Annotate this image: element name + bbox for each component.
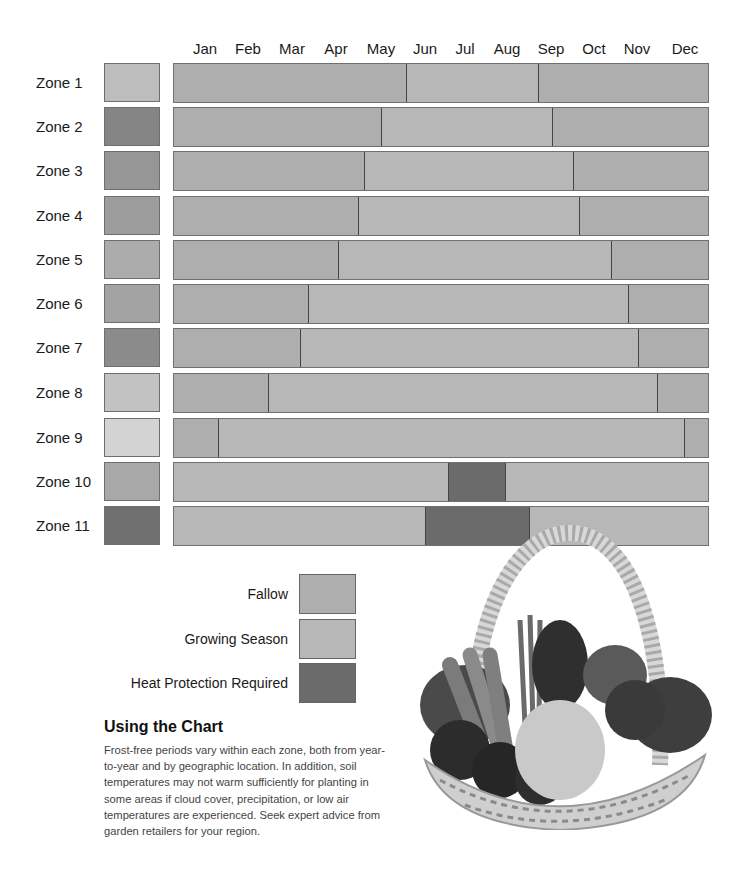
zone-label: Zone 5 [36,251,83,268]
zone-row: Zone 10 [0,462,746,503]
zone-swatch [104,462,160,501]
zone-swatch [104,506,160,545]
legend-item-heat: Heat Protection Required [100,663,356,704]
segment-fallow [628,285,709,323]
segment-fallow [657,374,709,412]
zone-season-bar [173,418,709,458]
zone-season-bar [173,284,709,324]
month-label: Dec [672,40,699,57]
zone-row: Zone 7 [0,328,746,369]
segment-fallow [174,419,218,457]
legend-item-fallow: Fallow [100,574,356,615]
segment-growing [364,152,573,190]
segment-fallow [174,197,358,235]
segment-growing [174,463,448,501]
zone-label: Zone 9 [36,429,83,446]
zone-label: Zone 1 [36,74,83,91]
legend-label: Fallow [248,586,288,602]
legend-swatch [299,663,356,703]
zone-season-bar [173,151,709,191]
legend-label: Growing Season [184,631,288,647]
segment-fallow [174,285,308,323]
using-the-chart: Using the Chart Frost-free periods vary … [104,718,394,839]
zone-swatch [104,418,160,457]
zone-label: Zone 7 [36,339,83,356]
zone-swatch [104,196,160,235]
segment-fallow [611,241,709,279]
zone-label: Zone 11 [36,517,90,534]
month-label: Nov [624,40,651,57]
segment-growing [308,285,628,323]
zone-swatch [104,328,160,367]
zone-season-bar [173,196,709,236]
month-label: Jan [193,40,217,57]
zone-swatch [104,151,160,190]
segment-growing [268,374,657,412]
legend-swatch [299,619,356,659]
segment-growing [300,329,638,367]
segment-fallow [579,197,709,235]
segment-growing [358,197,579,235]
zone-label: Zone 3 [36,162,83,179]
segment-fallow [174,374,268,412]
zone-label: Zone 8 [36,384,83,401]
vegetable-basket-image [405,525,715,830]
month-label: Sep [538,40,565,57]
zone-swatch [104,373,160,412]
segment-fallow [538,64,709,102]
segment-fallow [174,329,300,367]
segment-fallow [684,419,709,457]
zone-swatch [104,107,160,146]
zone-season-bar [173,328,709,368]
section-body: Frost-free periods vary within each zone… [104,742,394,839]
zone-row: Zone 2 [0,107,746,148]
segment-fallow [573,152,709,190]
segment-growing [505,463,709,501]
segment-fallow [174,241,338,279]
zone-row: Zone 4 [0,196,746,237]
zone-row: Zone 3 [0,151,746,192]
zone-season-bar [173,63,709,103]
zone-row: Zone 8 [0,373,746,414]
zone-label: Zone 4 [36,207,83,224]
segment-fallow [174,64,406,102]
zone-label: Zone 10 [36,473,91,490]
month-label: Oct [582,40,605,57]
segment-growing [406,64,538,102]
segment-fallow [638,329,709,367]
zone-label: Zone 2 [36,118,83,135]
zone-row: Zone 5 [0,240,746,281]
zone-swatch [104,240,160,279]
segment-growing [218,419,684,457]
legend-label: Heat Protection Required [131,675,288,691]
zone-season-bar [173,240,709,280]
segment-fallow [174,152,364,190]
segment-growing [338,241,611,279]
legend-swatch [299,574,356,614]
zone-swatch [104,63,160,102]
month-label: Apr [324,40,347,57]
month-label: Aug [494,40,521,57]
zone-label: Zone 6 [36,295,83,312]
month-label: Feb [235,40,261,57]
legend-item-growing: Growing Season [100,619,356,660]
segment-fallow [174,108,381,146]
zone-season-bar [173,462,709,502]
zone-row: Zone 6 [0,284,746,325]
segment-growing [381,108,552,146]
zone-swatch [104,284,160,323]
month-axis: Jan Feb Mar Apr May Jun Jul Aug Sep Oct … [0,40,746,60]
section-heading: Using the Chart [104,718,394,736]
segment-fallow [552,108,709,146]
zone-season-bar [173,373,709,413]
month-label: Jul [455,40,474,57]
zone-row: Zone 1 [0,63,746,104]
zone-season-bar [173,107,709,147]
zone-row: Zone 9 [0,418,746,459]
segment-growing [174,507,425,545]
month-label: Jun [413,40,437,57]
segment-heat [448,463,506,501]
month-label: May [367,40,395,57]
month-label: Mar [279,40,305,57]
